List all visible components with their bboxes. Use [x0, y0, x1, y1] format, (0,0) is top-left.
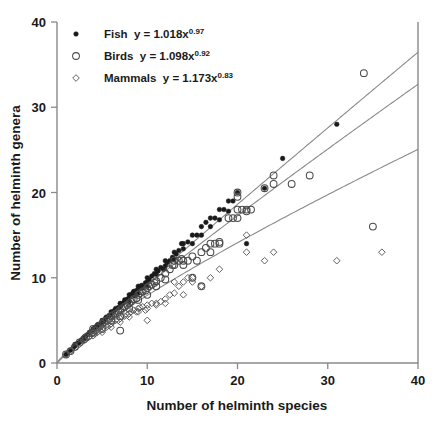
legend-marker-birds: [73, 53, 80, 60]
y-tick-label-10: 10: [32, 271, 46, 286]
point-birds: [184, 257, 191, 264]
point-mammals: [270, 249, 277, 256]
y-tick-label-30: 30: [32, 100, 46, 115]
point-mammals: [333, 257, 340, 264]
series-birds: [63, 70, 377, 358]
legend-marker-fish: [74, 32, 79, 37]
legend-marker-mammals: [73, 75, 80, 82]
point-fish: [222, 207, 227, 212]
point-fish: [199, 233, 204, 238]
y-tick-label-40: 40: [32, 15, 46, 30]
y-axis-title: Number of helminth genera: [8, 105, 23, 281]
point-mammals: [207, 274, 214, 281]
point-fish: [208, 224, 213, 229]
y-axis-tick-labels: 010203040: [32, 15, 46, 371]
point-fish: [208, 216, 213, 221]
x-tick-label-20: 20: [230, 373, 244, 388]
x-tick-label-10: 10: [140, 373, 154, 388]
point-fish: [231, 199, 236, 204]
point-mammals: [162, 296, 169, 303]
point-fish: [181, 246, 186, 251]
point-fish: [190, 241, 195, 246]
legend-label-fish: Fish y = 1.018x0.97: [104, 27, 205, 40]
point-birds: [193, 257, 200, 264]
y-tick-label-0: 0: [39, 356, 46, 371]
chart-canvas: 010203040 010203040 Number of helminth s…: [0, 0, 438, 424]
point-mammals: [180, 279, 187, 286]
x-axis-ticks: [57, 363, 418, 369]
legend-label-mammals: Mammals y = 1.173x0.83: [104, 71, 234, 84]
point-birds: [207, 249, 214, 256]
point-birds: [117, 327, 124, 334]
point-fish: [181, 241, 186, 246]
point-fish: [262, 186, 267, 191]
point-mammals: [379, 249, 386, 256]
scatter-chart-figure: 010203040 010203040 Number of helminth s…: [0, 0, 438, 424]
x-tick-label-40: 40: [411, 373, 425, 388]
point-fish: [334, 122, 339, 127]
point-fish: [280, 156, 285, 161]
point-birds: [198, 249, 205, 256]
point-birds: [360, 70, 367, 77]
point-fish: [213, 216, 218, 221]
chart-legend: Fish y = 1.018x0.97Birds y = 1.098x0.92M…: [73, 27, 234, 84]
point-fish: [204, 220, 209, 225]
point-birds: [203, 245, 210, 252]
point-birds: [198, 283, 205, 290]
x-tick-label-30: 30: [321, 373, 335, 388]
point-fish: [199, 224, 204, 229]
point-birds: [189, 253, 196, 260]
point-fish: [217, 217, 222, 222]
point-mammals: [144, 317, 151, 324]
point-birds: [369, 223, 376, 230]
point-birds: [180, 262, 187, 269]
point-fish: [190, 233, 195, 238]
point-mammals: [216, 266, 223, 273]
y-tick-label-20: 20: [32, 186, 46, 201]
point-mammals: [180, 292, 187, 299]
point-fish: [186, 240, 191, 245]
point-mammals: [176, 283, 183, 290]
point-fish: [226, 209, 231, 214]
x-axis-title: Number of helminth species: [147, 398, 328, 413]
point-fish: [226, 199, 231, 204]
point-mammals: [261, 257, 268, 264]
x-axis-tick-labels: 010203040: [53, 373, 425, 388]
point-fish: [217, 207, 222, 212]
point-birds: [157, 274, 164, 281]
point-birds: [270, 181, 277, 188]
point-birds: [288, 181, 295, 188]
point-birds: [248, 206, 255, 213]
x-tick-label-0: 0: [53, 373, 60, 388]
y-axis-ticks: [51, 22, 57, 363]
point-mammals: [243, 249, 250, 256]
point-fish: [195, 233, 200, 238]
point-birds: [306, 172, 313, 179]
data-points-group: [63, 70, 386, 358]
point-fish: [244, 241, 249, 246]
point-birds: [189, 274, 196, 281]
point-fish: [177, 248, 182, 253]
legend-label-birds: Birds y = 1.098x0.92: [104, 49, 211, 62]
